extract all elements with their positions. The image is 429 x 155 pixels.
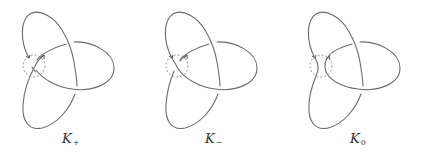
- label-k-minus: K−: [205, 131, 222, 147]
- panel-k-minus: K−: [143, 0, 286, 155]
- label-k-plus: K+: [62, 131, 79, 147]
- crossing-highlight-circle: [310, 55, 332, 77]
- panel-k-zero: K0: [286, 0, 429, 155]
- crossing-highlight-circle: [23, 55, 45, 77]
- panel-k-plus: K+: [0, 0, 143, 155]
- label-k-zero: K0: [350, 131, 366, 147]
